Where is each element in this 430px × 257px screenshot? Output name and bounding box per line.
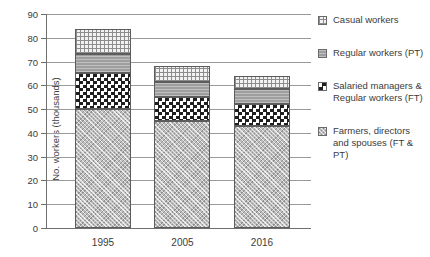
bar-series-container: 199520052016 (46, 14, 311, 228)
legend-swatch-regular-workers-pt-icon (318, 49, 327, 58)
y-tick-label-0: 0 (33, 223, 38, 234)
bar-segment-casual-workers-2005[interactable] (154, 66, 210, 81)
bar-segment-salaried-managers-1995[interactable] (75, 73, 131, 109)
plot-area: 0102030405060708090 199520052016 (46, 14, 311, 228)
y-tick-label-40: 40 (27, 127, 38, 138)
bar-segment-regular-workers-pt-2016[interactable] (234, 89, 290, 104)
bar-segment-farmers-directors-1995[interactable] (75, 109, 131, 228)
legend-label-farmers-directors: Farmers, directors and spouses (FT & PT) (333, 125, 426, 161)
bar-segment-salaried-managers-2016[interactable] (234, 104, 290, 125)
y-tick-label-20: 20 (27, 175, 38, 186)
chart-legend: Casual workers Regular workers (PT) Sala… (318, 14, 426, 182)
y-tick-label-30: 30 (27, 151, 38, 162)
legend-swatch-casual-workers-icon (318, 16, 327, 25)
x-tick-label-2016: 2016 (234, 237, 290, 248)
gridline-0 (46, 228, 311, 229)
bar-segment-casual-workers-2016[interactable] (234, 76, 290, 89)
legend-swatch-farmers-directors-icon (318, 127, 327, 136)
x-tick-label-2005: 2005 (154, 237, 210, 248)
bar-segment-farmers-directors-2016[interactable] (234, 126, 290, 228)
y-tick-label-90: 90 (27, 9, 38, 20)
y-tick-label-80: 80 (27, 32, 38, 43)
stacked-bar-chart: No. workers (thousands) 0102030405060708… (0, 0, 430, 257)
bar-segment-regular-workers-pt-2005[interactable] (154, 82, 210, 97)
y-tick-0 (41, 228, 46, 229)
bar-group-2016[interactable]: 2016 (234, 14, 290, 228)
legend-swatch-salaried-managers-icon (318, 82, 327, 91)
y-tick-label-10: 10 (27, 199, 38, 210)
y-tick-label-70: 70 (27, 56, 38, 67)
legend-label-regular-workers-pt: Regular workers (PT) (333, 47, 423, 59)
y-tick-label-50: 50 (27, 104, 38, 115)
x-tick-label-1995: 1995 (75, 237, 131, 248)
bar-stack-1995 (75, 14, 131, 228)
bar-stack-2016 (234, 14, 290, 228)
legend-item-farmers-directors[interactable]: Farmers, directors and spouses (FT & PT) (318, 125, 426, 161)
bar-group-1995[interactable]: 1995 (75, 14, 131, 228)
bar-segment-regular-workers-pt-1995[interactable] (75, 54, 131, 73)
legend-label-salaried-managers: Salaried managers & Regular workers (FT) (333, 80, 426, 104)
legend-item-salaried-managers[interactable]: Salaried managers & Regular workers (FT) (318, 80, 426, 104)
bar-segment-casual-workers-1995[interactable] (75, 29, 131, 54)
bar-segment-farmers-directors-2005[interactable] (154, 121, 210, 228)
legend-label-casual-workers: Casual workers (333, 14, 398, 26)
bar-group-2005[interactable]: 2005 (154, 14, 210, 228)
legend-item-casual-workers[interactable]: Casual workers (318, 14, 426, 26)
bar-segment-salaried-managers-2005[interactable] (154, 97, 210, 121)
bar-stack-2005 (154, 14, 210, 228)
legend-item-regular-workers-pt[interactable]: Regular workers (PT) (318, 47, 426, 59)
y-tick-label-60: 60 (27, 80, 38, 91)
